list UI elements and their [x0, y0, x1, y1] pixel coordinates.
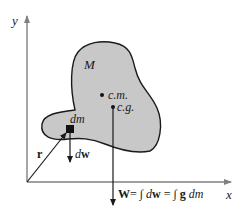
position-vector-r — [27, 133, 66, 182]
body-shape — [42, 42, 161, 152]
weight-equation: W= ∫ dw = ∫ g dm — [118, 188, 203, 200]
cg-label: c.g. — [117, 101, 134, 113]
mass-element-dm — [66, 125, 74, 133]
r-label: r — [37, 148, 42, 160]
body-label: M — [84, 58, 95, 71]
y-axis-label: y — [12, 14, 18, 27]
dm-label: dm — [70, 113, 85, 125]
cm-point — [100, 93, 104, 97]
x-axis-label: x — [226, 188, 232, 201]
dw-label: dw — [75, 148, 90, 160]
